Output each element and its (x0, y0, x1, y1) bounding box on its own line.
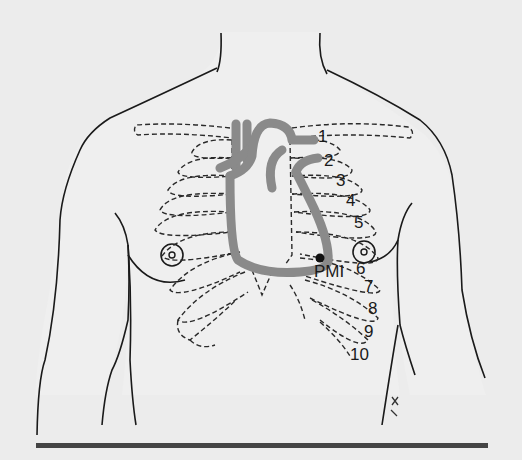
rib-label-10: 10 (350, 345, 369, 364)
rib-label-4: 4 (346, 191, 355, 210)
rib-label-5: 5 (354, 213, 363, 232)
rib-label-6: 6 (356, 259, 365, 278)
anatomy-diagram: 1 2 3 4 5 6 7 8 9 10 PMI (0, 0, 522, 460)
torso-shape (35, 32, 486, 395)
rib-label-9: 9 (364, 322, 373, 341)
bottom-rule (36, 443, 488, 448)
artist-mark (391, 397, 398, 416)
rib-label-7: 7 (364, 277, 373, 296)
rib-label-1: 1 (318, 127, 327, 146)
rib-label-8: 8 (368, 299, 377, 318)
rib-label-3: 3 (336, 171, 345, 190)
pmi-label: PMI (314, 262, 344, 281)
chest-illustration: 1 2 3 4 5 6 7 8 9 10 PMI (0, 0, 522, 460)
rib-label-2: 2 (324, 151, 333, 170)
